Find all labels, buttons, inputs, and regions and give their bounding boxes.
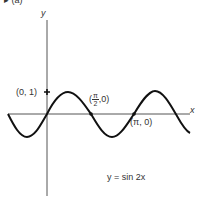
x-axis-label: x bbox=[190, 106, 195, 115]
y-axis-label: y bbox=[41, 9, 46, 18]
point-pi bbox=[132, 112, 136, 116]
fraction-numerator: π bbox=[92, 92, 99, 100]
equation-label: y = sin 2x bbox=[107, 173, 145, 182]
fraction-pi-over-2: π2 bbox=[92, 92, 99, 107]
tick-mark-0-1 bbox=[44, 89, 50, 95]
point-pi-over-2 bbox=[89, 112, 93, 116]
paren-close: ,0) bbox=[99, 94, 110, 104]
fraction-denominator: 2 bbox=[93, 100, 97, 107]
point-label-0-1: (0, 1) bbox=[16, 88, 37, 97]
point-label-pi: (π, 0) bbox=[130, 118, 152, 127]
partial-figure-label: ▸ (a) bbox=[4, 0, 23, 5]
point-label-pi-over-2: (π2,0) bbox=[89, 92, 109, 107]
